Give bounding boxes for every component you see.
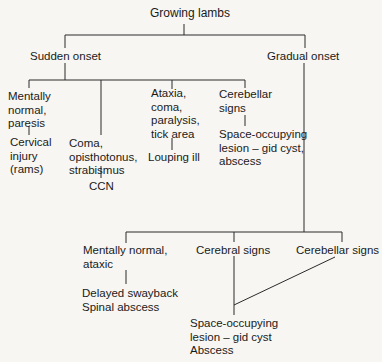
sudden-onset-node: Sudden onset xyxy=(30,50,101,64)
diagnosis-space-occupying-gradual: Space-occupying lesion – gid cyst Absces… xyxy=(190,317,278,358)
diagnosis-louping-ill: Louping ill xyxy=(148,151,200,165)
root-node: Growing lambs xyxy=(150,7,230,21)
sign-ataxia-coma-paralysis: Ataxia, coma, paralysis, tick area xyxy=(151,87,200,141)
diagnosis-cervical-injury: Cervical injury (rams) xyxy=(10,136,52,177)
sign-cerebellar-sudden: Cerebellar signs xyxy=(219,88,272,115)
diagnosis-space-occupying-sudden: Space-occupying lesion – gid cyst, absce… xyxy=(219,128,307,169)
diagnosis-ccn: CCN xyxy=(89,180,114,194)
sign-cerebellar-gradual: Cerebellar signs xyxy=(296,244,379,258)
diagnostic-flowchart: Growing lambs Sudden onset Gradual onset… xyxy=(0,0,382,362)
sign-mentally-normal-ataxic: Mentally normal, ataxic xyxy=(83,244,167,271)
sign-coma-opisthotonus: Coma, opisthotonus, strabismus xyxy=(69,137,137,178)
diagnosis-delayed-swayback: Delayed swayback Spinal abscess xyxy=(82,287,178,314)
sign-mentally-normal-paresis: Mentally normal, paresis xyxy=(8,90,51,131)
sign-cerebral-gradual: Cerebral signs xyxy=(196,244,270,258)
gradual-onset-node: Gradual onset xyxy=(267,50,339,64)
